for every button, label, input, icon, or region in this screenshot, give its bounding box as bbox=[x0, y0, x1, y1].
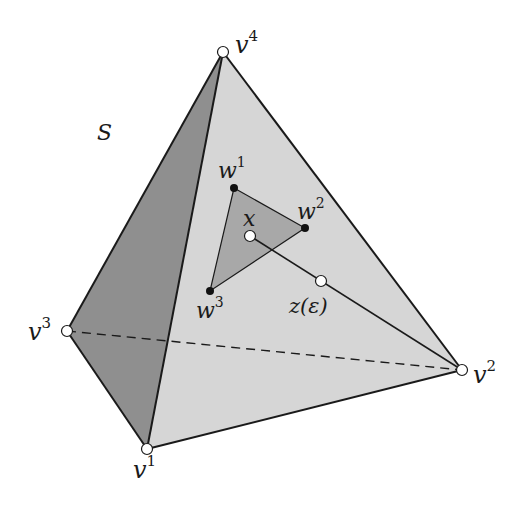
point-w2 bbox=[301, 224, 309, 232]
point-x bbox=[245, 231, 256, 242]
label-v1: v1 bbox=[133, 452, 156, 484]
label-z-epsilon: z(ε) bbox=[288, 294, 328, 318]
label-v3: v3 bbox=[28, 314, 51, 346]
label-v2: v2 bbox=[473, 357, 496, 389]
tetrahedron-diagram: S v4 v3 v2 v1 w1 w2 w3 x z(ε) bbox=[0, 0, 524, 506]
label-v4: v4 bbox=[235, 27, 258, 59]
vertex-v3 bbox=[62, 326, 73, 337]
label-x: x bbox=[243, 206, 256, 231]
point-w1 bbox=[230, 184, 238, 192]
vertex-v4 bbox=[218, 47, 229, 58]
point-w3 bbox=[206, 287, 214, 295]
set-label-s: S bbox=[97, 120, 112, 145]
point-z-epsilon bbox=[316, 276, 327, 287]
vertex-v2 bbox=[457, 365, 468, 376]
